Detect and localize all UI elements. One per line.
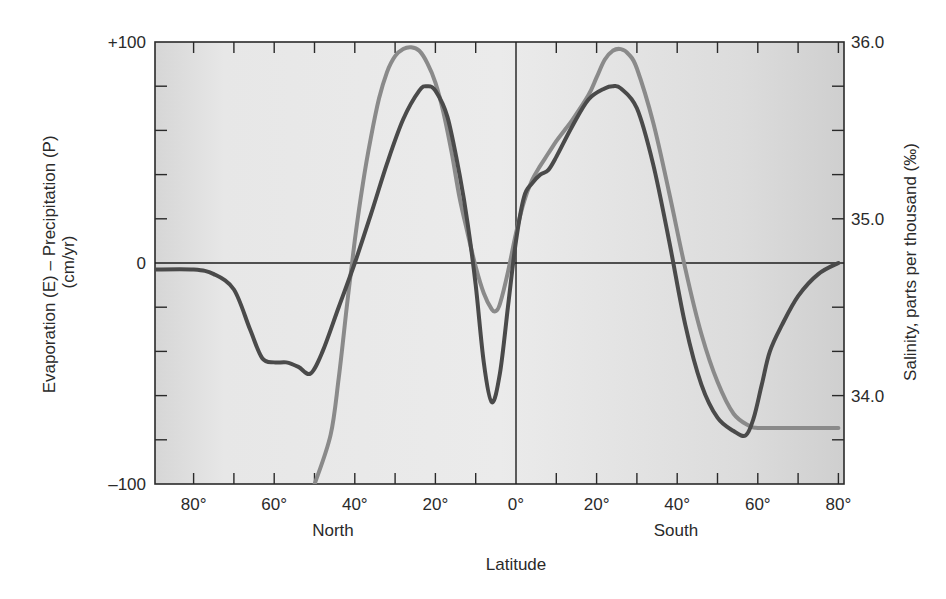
y-right-tick-label: 35.0 — [851, 210, 884, 229]
x-region-north: North — [312, 521, 354, 540]
x-region-south: South — [654, 521, 698, 540]
y-right-tick-label: 34.0 — [851, 387, 884, 406]
x-tick-label: 20° — [423, 495, 449, 514]
x-tick-label: 60° — [745, 495, 771, 514]
y-left-tick-label: +100 — [108, 33, 146, 52]
x-tick-label: 40° — [664, 495, 690, 514]
x-tick-label: 20° — [584, 495, 610, 514]
x-tick-label: 0° — [508, 495, 524, 514]
x-axis-title: Latitude — [486, 555, 547, 574]
evaporation-salinity-chart: 80°60°40°20°0°20°40°60°80°+1000–10036.03… — [0, 0, 946, 599]
x-tick-label: 40° — [342, 495, 368, 514]
x-tick-label: 60° — [261, 495, 287, 514]
y-right-tick-label: 36.0 — [851, 33, 884, 52]
y-left-tick-label: –100 — [108, 475, 146, 494]
y-axis-left-title: Evaporation (E) – Precipitation (P) (cm/… — [40, 131, 78, 394]
y-axis-right-title: Salinity, parts per thousand (‰) — [901, 143, 920, 381]
x-tick-label: 80° — [826, 495, 852, 514]
y-left-tick-label: 0 — [137, 254, 146, 273]
x-tick-label: 80° — [181, 495, 207, 514]
